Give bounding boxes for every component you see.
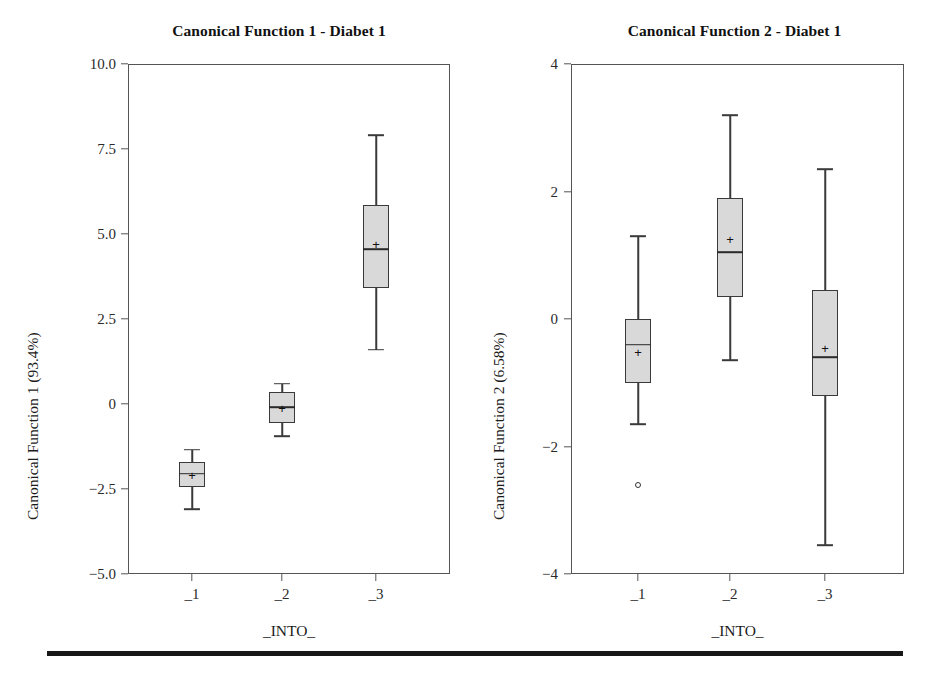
boxplot-cap-upper	[184, 449, 200, 451]
boxplot-cap-lower	[184, 509, 200, 511]
y-tick-label: 4	[551, 56, 559, 73]
y-tick-label: −4	[542, 566, 558, 583]
boxplot-cap-lower	[368, 349, 384, 351]
boxplot-cap-upper	[274, 383, 290, 385]
boxplot-whisker-upper	[637, 236, 639, 319]
boxplot-whisker-upper	[375, 135, 377, 205]
y-tick-label: 10.0	[90, 56, 116, 73]
y-tick-label: 5.0	[97, 226, 116, 243]
boxplot-whisker-upper	[824, 169, 826, 290]
boxplot-cap-upper	[368, 135, 384, 137]
y-tick-mark	[121, 63, 128, 64]
boxplot-whisker-lower	[637, 383, 639, 424]
y-tick-mark	[121, 403, 128, 404]
y-tick-label: 7.5	[97, 141, 116, 158]
chart-title-left: Canonical Function 1 - Diabet 1	[0, 22, 514, 40]
boxplot-whisker-lower	[729, 297, 731, 361]
y-tick-mark	[121, 573, 128, 574]
boxplot-cap-lower	[817, 545, 833, 547]
chart-title-right: Canonical Function 2 - Diabet 1	[470, 22, 939, 40]
y-tick-label: 2	[551, 183, 559, 200]
plot-frame-right	[571, 64, 904, 574]
boxplot-whisker-lower	[281, 423, 283, 437]
x-tick-label: _3	[369, 586, 384, 603]
bottom-divider-rule	[47, 651, 903, 656]
y-tick-label: 2.5	[97, 311, 116, 328]
plot-frame-left	[128, 64, 450, 574]
x-axis-label-right: _INTO_	[711, 622, 763, 640]
boxplot-cap-upper	[630, 235, 646, 237]
y-tick-label: 0	[551, 311, 559, 328]
y-tick-mark	[121, 233, 128, 234]
y-tick-mark	[564, 63, 571, 64]
y-tick-mark	[564, 318, 571, 319]
y-tick-label: −2	[542, 438, 558, 455]
boxplot-cap-upper	[817, 168, 833, 170]
y-tick-mark	[564, 191, 571, 192]
boxplot-mean-marker: +	[726, 235, 735, 244]
y-tick-mark	[121, 488, 128, 489]
boxplot-whisker-lower	[375, 288, 377, 349]
boxplot-mean-marker: +	[278, 404, 287, 413]
boxplot-mean-marker: +	[634, 348, 643, 357]
x-tick-label: _1	[185, 586, 200, 603]
boxplot-outlier-point	[635, 482, 641, 488]
boxplot-cap-lower	[630, 423, 646, 425]
boxplot-mean-marker: +	[188, 471, 197, 480]
boxplot-whisker-lower	[824, 396, 826, 546]
x-tick-mark	[375, 574, 376, 581]
y-tick-mark	[564, 446, 571, 447]
x-tick-label: _2	[275, 586, 290, 603]
x-tick-label: _3	[818, 586, 833, 603]
boxplot-cap-lower	[722, 360, 738, 362]
x-tick-mark	[637, 574, 638, 581]
boxplot-cap-lower	[274, 436, 290, 438]
boxplot-whisker-upper	[729, 115, 731, 198]
chart-panel-right: Canonical Function 2 - Diabet 1 Canonica…	[470, 0, 939, 660]
boxplot-whisker-upper	[281, 384, 283, 393]
boxplot-median-line	[717, 251, 743, 253]
y-axis-label-right: Canonical Function 2 (6.58%)	[490, 332, 508, 520]
y-tick-mark	[564, 573, 571, 574]
chart-panel-left: Canonical Function 1 - Diabet 1 Canonica…	[0, 0, 470, 660]
figure-page: Canonical Function 1 - Diabet 1 Canonica…	[0, 0, 939, 678]
x-tick-mark	[824, 574, 825, 581]
x-tick-label: _1	[631, 586, 646, 603]
boxplot-whisker-lower	[191, 487, 193, 509]
boxplot-mean-marker: +	[821, 343, 830, 352]
y-tick-mark	[121, 148, 128, 149]
x-tick-mark	[281, 574, 282, 581]
x-axis-label-left: _INTO_	[263, 622, 315, 640]
y-axis-label-left: Canonical Function 1 (93.4%)	[24, 332, 42, 520]
boxplot-whisker-upper	[191, 450, 193, 462]
y-tick-label: −2.5	[89, 481, 116, 498]
x-tick-mark	[191, 574, 192, 581]
boxplot-cap-upper	[722, 114, 738, 116]
boxplot-box	[717, 198, 743, 297]
x-tick-mark	[729, 574, 730, 581]
y-tick-label: 0	[109, 396, 117, 413]
y-tick-label: −5.0	[89, 566, 116, 583]
boxplot-median-line	[812, 356, 838, 358]
x-tick-label: _2	[723, 586, 738, 603]
boxplot-mean-marker: +	[372, 239, 381, 248]
y-tick-mark	[121, 318, 128, 319]
